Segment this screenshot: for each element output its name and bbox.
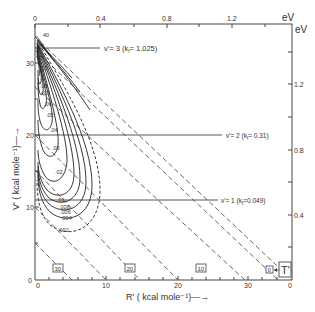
svg-text:20: 20 [174,282,182,289]
right-ev-label: eV [295,24,308,35]
svg-text:1.2: 1.2 [227,15,237,22]
svg-text:10: 10 [102,282,110,289]
axes [35,24,292,280]
svg-text:10: 10 [26,204,34,211]
svg-text:0: 0 [28,277,32,284]
contour-chart: 0 0.4 0.8 1.2 eV eV 1.2 0.8 0.4 30 20 10… [0,0,315,312]
top-ticks [35,24,265,28]
svg-text:.06: .06 [44,101,52,107]
svg-text:0.8: 0.8 [294,147,304,154]
svg-text:0: 0 [36,282,40,289]
x-axis-title: R' ( kcal mole⁻¹)—→ [126,292,209,302]
isoergic-labels: 30 20 10 0 T' [53,262,291,277]
svg-text:30: 30 [244,282,252,289]
svg-text:.07: .07 [42,90,50,96]
svg-text:.002: .002 [58,227,69,233]
right-tick-labels: 1.2 0.8 0.4 [294,81,304,219]
svg-text:40: 40 [43,32,49,38]
svg-text:.04: .04 [50,127,58,133]
svg-text:0.4: 0.4 [294,212,304,219]
svg-text:0.8: 0.8 [162,15,172,22]
svg-text:.15: .15 [40,65,48,71]
svg-text:.1: .1 [40,75,45,81]
bottom-tick-labels: 0 10 20 30 0 [36,282,292,289]
left-tick-labels: 30 20 10 0 [26,60,34,284]
svg-text:0: 0 [33,15,37,22]
svg-text:.03: .03 [52,145,60,151]
y-axis-title: V' ( kcal mole⁻¹)—→ [11,127,21,210]
svg-text:30: 30 [55,266,62,272]
svg-text:.02: .02 [55,169,63,175]
top-ev-label: eV [282,12,295,23]
svg-text:v'= 2 (kf= 0.31): v'= 2 (kf= 0.31) [226,132,269,141]
t-prime-label: T' [281,264,290,276]
svg-text:0: 0 [288,282,292,289]
svg-text:10: 10 [198,266,205,272]
svg-text:20: 20 [127,266,134,272]
svg-text:.004: .004 [61,215,72,221]
svg-text:20: 20 [26,132,34,139]
svg-text:v'= 3 (kf= 1.025): v'= 3 (kf= 1.025) [104,44,158,54]
svg-text:.05: .05 [46,112,54,118]
svg-text:.08: .08 [40,83,48,89]
svg-text:30: 30 [26,60,34,67]
svg-text:.01: .01 [57,197,65,203]
top-tick-labels: 0 0.4 0.8 1.2 [33,15,237,22]
svg-text:1.2: 1.2 [294,81,304,88]
left-ticks [35,37,39,243]
isoergic-lines [35,37,292,280]
svg-text:v'= 1 (kf=0.049): v'= 1 (kf=0.049) [221,197,265,206]
right-ticks [288,52,292,247]
svg-text:0.4: 0.4 [96,15,106,22]
